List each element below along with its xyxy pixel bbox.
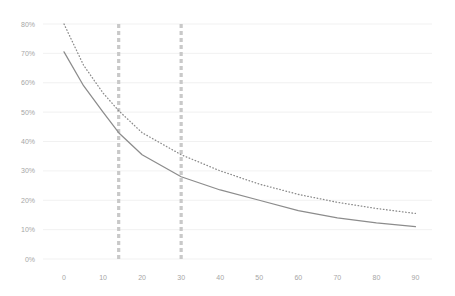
- x-tick-label: 10: [99, 274, 107, 281]
- x-tick-label: 20: [138, 274, 146, 281]
- x-tick-label: 0: [62, 274, 66, 281]
- x-tick-label: 90: [412, 274, 420, 281]
- reference-lines: [119, 24, 181, 262]
- y-tick-label: 70%: [21, 50, 35, 57]
- y-tick-label: 0%: [25, 256, 35, 263]
- y-axis-tick-labels: 0%10%20%30%40%50%60%70%80%: [21, 21, 35, 263]
- gridlines: [43, 24, 432, 259]
- y-tick-label: 20%: [21, 197, 35, 204]
- x-tick-label: 60: [294, 274, 302, 281]
- y-tick-label: 30%: [21, 167, 35, 174]
- y-tick-label: 40%: [21, 138, 35, 145]
- data-series: [64, 24, 415, 227]
- x-tick-label: 30: [177, 274, 185, 281]
- x-tick-label: 50: [255, 274, 263, 281]
- y-tick-label: 50%: [21, 109, 35, 116]
- y-tick-label: 10%: [21, 226, 35, 233]
- y-tick-label: 60%: [21, 79, 35, 86]
- x-tick-label: 70: [333, 274, 341, 281]
- series-dotted: [64, 24, 415, 213]
- y-tick-label: 80%: [21, 21, 35, 28]
- x-axis-tick-labels: 0102030405060708090: [62, 274, 419, 281]
- x-tick-label: 40: [216, 274, 224, 281]
- x-tick-label: 80: [373, 274, 381, 281]
- chart-canvas: 0%10%20%30%40%50%60%70%80% 0102030405060…: [0, 0, 455, 296]
- line-chart: 0%10%20%30%40%50%60%70%80% 0102030405060…: [0, 0, 455, 296]
